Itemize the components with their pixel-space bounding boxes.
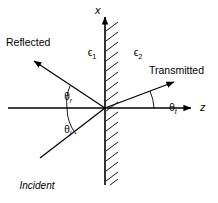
- transmitted-angle-arc: [150, 91, 154, 108]
- epsilon-1-label: ϵ1: [76, 34, 96, 74]
- epsilon-2-label: ϵ2: [122, 34, 142, 74]
- diagram-canvas: x z ϵ1 ϵ2 Reflected Transmitted θr θi θt…: [0, 0, 218, 203]
- theta-t-label: θt: [158, 90, 177, 127]
- x-axis-label: x: [95, 4, 101, 17]
- incident-wave-normal-line-1: Incident: [4, 180, 70, 192]
- reflected-ray-label: Reflected: [6, 36, 50, 48]
- transmitted-ray-label: Transmitted: [149, 64, 204, 76]
- epsilon-1-subscript: 1: [92, 52, 96, 61]
- theta-r-label: θr: [53, 79, 72, 116]
- incident-ray: [40, 108, 105, 158]
- incident-wave-normal-label: Incident wave normal: [4, 157, 70, 203]
- theta-r-subscript: r: [70, 97, 72, 104]
- theta-t-subscript: t: [175, 108, 177, 115]
- z-axis-label: z: [200, 101, 206, 114]
- theta-i-label: θi: [53, 112, 71, 149]
- theta-i-subscript: i: [70, 130, 72, 137]
- epsilon-2-subscript: 2: [138, 52, 142, 61]
